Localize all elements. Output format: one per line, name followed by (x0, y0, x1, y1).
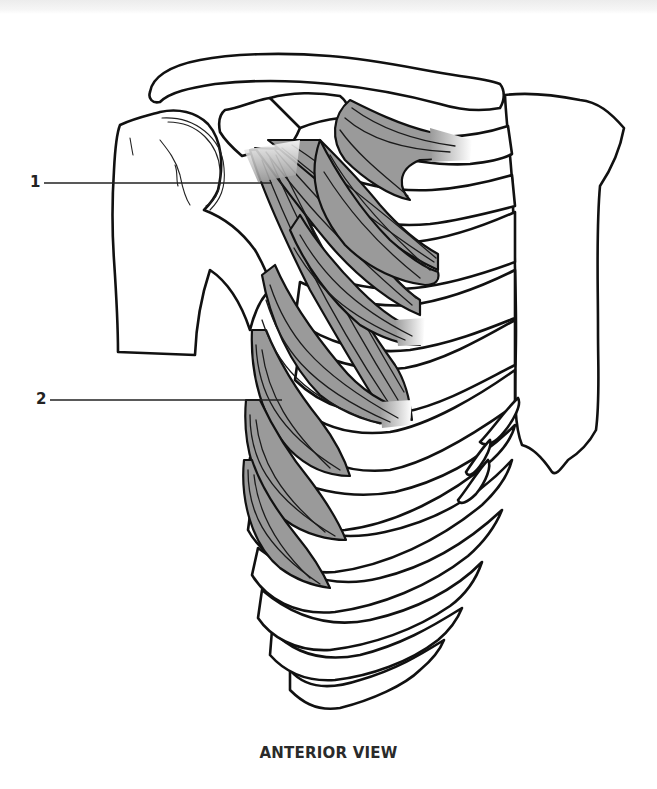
label-2: 2 (36, 390, 46, 408)
view-caption: ANTERIOR VIEW (0, 744, 657, 762)
sternum (505, 94, 624, 473)
anatomy-illustration (0, 0, 657, 789)
label-1: 1 (30, 173, 40, 191)
